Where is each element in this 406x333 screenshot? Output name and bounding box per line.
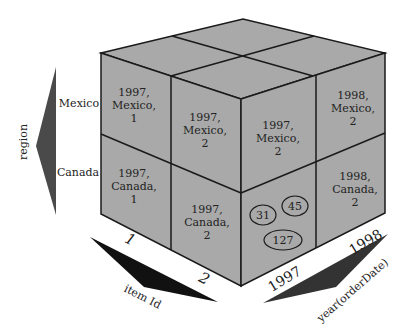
svg-text:1: 1 xyxy=(131,112,138,125)
svg-text:45: 45 xyxy=(288,200,302,213)
svg-text:1997,: 1997, xyxy=(191,203,223,216)
svg-text:2: 2 xyxy=(202,137,209,150)
region-tick-canada: Canada xyxy=(57,166,100,179)
svg-text:1998,: 1998, xyxy=(337,89,369,102)
svg-text:Mexico,: Mexico, xyxy=(183,124,227,137)
svg-text:1997,: 1997, xyxy=(189,111,221,124)
svg-text:31: 31 xyxy=(256,209,270,222)
svg-text:1998,: 1998, xyxy=(339,170,371,183)
svg-text:Canada,: Canada, xyxy=(184,216,230,229)
svg-text:Canada,: Canada, xyxy=(111,180,157,193)
region-arrow-icon xyxy=(36,67,56,215)
svg-text:2: 2 xyxy=(195,268,213,289)
svg-text:2: 2 xyxy=(275,145,282,158)
svg-text:1997,: 1997, xyxy=(118,167,150,180)
data-cube-diagram: 1997, Mexico, 1 1997, Mexico, 2 1997, Ca… xyxy=(0,0,406,333)
svg-text:Mexico,: Mexico, xyxy=(112,99,156,112)
svg-text:2: 2 xyxy=(350,115,357,128)
svg-text:1: 1 xyxy=(122,229,139,249)
svg-text:Mexico,: Mexico, xyxy=(331,102,375,115)
svg-text:Mexico,: Mexico, xyxy=(256,132,300,145)
svg-text:1: 1 xyxy=(131,193,138,206)
measure-127: 127 xyxy=(264,230,302,250)
measure-45: 45 xyxy=(282,196,308,216)
svg-text:2: 2 xyxy=(352,196,359,209)
region-tick-mexico: Mexico xyxy=(59,97,100,110)
svg-text:127: 127 xyxy=(273,234,294,247)
svg-text:1997,: 1997, xyxy=(262,119,294,132)
svg-text:2: 2 xyxy=(204,229,211,242)
measure-31: 31 xyxy=(250,205,276,225)
svg-text:region: region xyxy=(17,124,30,160)
svg-text:Canada,: Canada, xyxy=(332,183,378,196)
region-axis: region Mexico Canada xyxy=(17,67,100,215)
svg-text:1997,: 1997, xyxy=(118,86,150,99)
